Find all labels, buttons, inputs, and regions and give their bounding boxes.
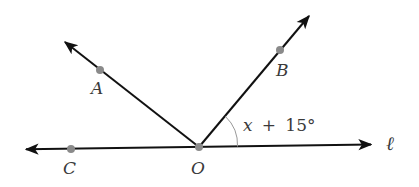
point-A: [96, 66, 104, 74]
label-A: A: [89, 78, 103, 98]
line-label: ℓ: [386, 132, 394, 154]
angle-variable: x: [243, 115, 253, 135]
angle-operator: +: [262, 115, 276, 135]
ray-OA: [65, 42, 199, 147]
point-B: [276, 46, 284, 54]
angle-value: 15°: [285, 115, 315, 135]
point-C: [67, 145, 75, 153]
label-C: C: [63, 158, 76, 178]
angle-arc: [226, 117, 238, 147]
angle-label: x + 15°: [243, 115, 315, 135]
label-O: O: [191, 158, 205, 178]
geometry-diagram: A B C O x + 15° ℓ: [0, 0, 419, 187]
point-O: [195, 143, 203, 151]
label-B: B: [275, 60, 289, 80]
